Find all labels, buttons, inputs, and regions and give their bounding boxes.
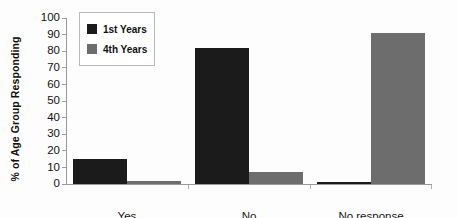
y-axis-tick-mark — [62, 18, 66, 19]
legend-label: 1st Years — [103, 24, 147, 35]
x-axis-category-label: No response — [310, 210, 432, 218]
y-axis-tick-label: 20 — [0, 145, 60, 157]
y-axis-tick-mark — [62, 101, 66, 102]
x-axis-separator — [310, 185, 311, 189]
legend-item: 1st Years — [87, 19, 154, 39]
x-axis-category-label: No — [188, 210, 310, 218]
y-axis-tick-mark — [62, 67, 66, 68]
legend-item: 4th Years — [87, 39, 154, 59]
y-axis-tick-label: 90 — [0, 29, 60, 41]
y-axis-tick-label: 0 — [0, 178, 60, 190]
legend-swatch-icon — [87, 24, 97, 34]
x-axis-separator — [188, 185, 189, 189]
chart-legend: 1st Years4th Years — [79, 12, 155, 66]
y-axis-tick-mark — [62, 117, 66, 118]
y-axis-tick-label: 50 — [0, 95, 60, 107]
bar — [127, 181, 181, 184]
bar — [317, 182, 371, 184]
bar — [73, 159, 127, 184]
y-axis-tick-label: 60 — [0, 79, 60, 91]
y-axis-tick-mark — [62, 34, 66, 35]
y-axis-tick-mark — [62, 51, 66, 52]
bar — [371, 33, 425, 184]
legend-swatch-icon — [87, 44, 97, 54]
x-axis-separator — [431, 185, 432, 189]
x-axis-line — [66, 184, 432, 185]
y-axis-tick-mark — [62, 150, 66, 151]
y-axis-tick-mark — [62, 184, 66, 185]
y-axis-line — [66, 18, 67, 185]
y-axis-tick-mark — [62, 84, 66, 85]
bar — [195, 48, 249, 184]
y-axis-tick-mark — [62, 167, 66, 168]
bar-chart: % of Age Group Responding 10090807060504… — [0, 0, 458, 218]
y-axis-tick-label: 40 — [0, 112, 60, 124]
y-axis-tick-label: 80 — [0, 45, 60, 57]
x-axis-category-label: Yes — [66, 210, 188, 218]
y-axis-tick-label: 10 — [0, 162, 60, 174]
y-axis-tick-label: 70 — [0, 62, 60, 74]
y-axis-tick-label: 100 — [0, 12, 60, 24]
legend-label: 4th Years — [103, 44, 147, 55]
bar — [249, 172, 303, 184]
y-axis-tick-label: 30 — [0, 128, 60, 140]
y-axis-tick-mark — [62, 134, 66, 135]
